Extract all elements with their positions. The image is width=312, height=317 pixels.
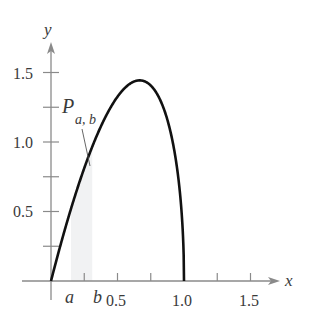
y-tick-label-0.5: 0.5 bbox=[13, 203, 33, 220]
x-tick-label-0.5: 0.5 bbox=[106, 292, 126, 309]
y-tick-label-1.5: 1.5 bbox=[13, 65, 33, 82]
y-tick-label-1.0: 1.0 bbox=[13, 134, 33, 151]
shaded-region-pab bbox=[71, 147, 92, 281]
a-label: a bbox=[65, 287, 74, 307]
axes bbox=[22, 48, 274, 300]
chart: y x 1.5 1.0 0.5 0.5 1.0 1.5 a b P a, b bbox=[0, 0, 312, 317]
x-tick-label-1.5: 1.5 bbox=[239, 292, 259, 309]
region-label-P: P bbox=[61, 95, 74, 117]
x-ticks bbox=[84, 273, 250, 281]
b-label: b bbox=[93, 287, 102, 307]
region-label-subscript: a, b bbox=[75, 112, 96, 127]
x-tick-label-1.0: 1.0 bbox=[172, 292, 192, 309]
y-axis-label: y bbox=[42, 20, 52, 39]
x-axis-label: x bbox=[284, 271, 293, 290]
